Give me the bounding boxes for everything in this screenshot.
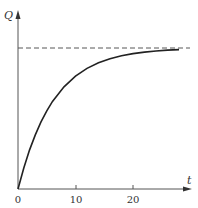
x-axis-arrow-icon — [183, 187, 192, 192]
q-curve — [18, 50, 179, 189]
chart: Q t 0 10 20 — [0, 0, 198, 208]
x-tick-label-10: 10 — [70, 194, 83, 205]
x-tick-label-0: 0 — [15, 194, 21, 205]
x-tick-label-20: 20 — [127, 194, 140, 205]
y-axis-arrow-icon — [16, 10, 21, 19]
x-axis-label: t — [187, 174, 192, 187]
y-axis-label: Q — [4, 9, 13, 22]
